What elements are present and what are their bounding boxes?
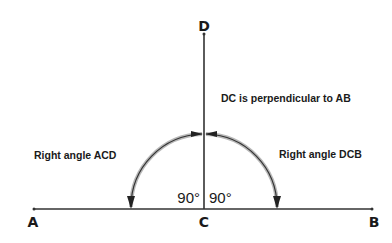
- point-a-dot: [33, 208, 36, 211]
- diagram-canvas: D A C B DC is perpendicular to AB Right …: [0, 0, 392, 243]
- point-label-a: A: [28, 214, 39, 230]
- point-label-b: B: [369, 214, 380, 230]
- angle-value-right: 90°: [209, 189, 232, 206]
- angle-value-left: 90°: [177, 189, 200, 206]
- arrowhead-right-down-icon: [273, 196, 281, 209]
- right-angle-dcb-label: Right angle DCB: [279, 148, 362, 160]
- right-angle-acd-label: Right angle ACD: [34, 149, 117, 161]
- perpendicular-statement: DC is perpendicular to AB: [221, 92, 351, 104]
- point-label-d: D: [198, 18, 210, 34]
- point-label-c: C: [199, 214, 209, 230]
- point-b-dot: [371, 208, 374, 211]
- arrowhead-left-down-icon: [127, 196, 135, 209]
